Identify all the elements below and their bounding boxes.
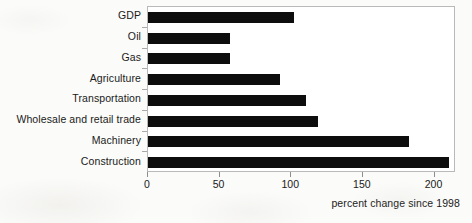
x-tick-label: 0 [144,178,150,190]
horizontal-bar-chart: GDPOilGasAgricultureTransportationWholes… [0,0,472,223]
plot-area [148,7,454,171]
category-tick-mark [142,27,147,28]
category-label: Gas [0,52,141,63]
category-axis: GDPOilGasAgricultureTransportationWholes… [0,6,141,172]
plot-frame [147,6,455,172]
x-tick-label: 200 [425,178,443,190]
bar-agriculture [148,74,280,85]
category-tick-mark [142,151,147,152]
category-label: GDP [0,10,141,21]
x-tick-mark [290,172,291,177]
category-tick-mark [142,110,147,111]
x-tick-label: 50 [213,178,225,190]
bar-machinery [148,136,409,147]
category-tick-mark [142,89,147,90]
category-tick-mark [142,68,147,69]
x-tick-mark [147,172,148,177]
category-label: Machinery [0,135,141,146]
x-tick-mark [219,172,220,177]
bar-gas [148,53,230,64]
category-tick-mark [142,131,147,132]
bar-construction [148,157,449,168]
x-tick-mark [362,172,363,177]
category-label: Agriculture [0,73,141,84]
bar-wholesale-and-retail-trade [148,116,318,127]
x-tick-mark [434,172,435,177]
x-tick-label: 150 [353,178,371,190]
bar-oil [148,33,230,44]
x-axis-caption: percent change since 1998 [331,197,460,209]
category-label: Oil [0,31,141,42]
bar-transportation [148,95,306,106]
category-label: Wholesale and retail trade [0,114,141,125]
category-label: Construction [0,156,141,167]
x-tick-label: 100 [281,178,299,190]
bar-gdp [148,12,294,23]
category-label: Transportation [0,93,141,104]
category-tick-mark [142,48,147,49]
